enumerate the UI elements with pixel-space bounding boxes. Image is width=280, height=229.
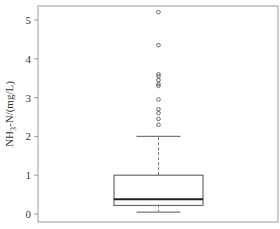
y-tick-label: 5 [26,14,32,26]
y-axis-label: NH3-N/(mg/L) [3,81,18,147]
outlier-point [157,107,161,111]
outlier-point [157,123,161,127]
y-tick-label: 4 [26,53,32,65]
box-plot: 012345 NH3-N/(mg/L) [0,0,280,229]
y-tick-label: 2 [26,130,32,142]
outlier-point [157,111,161,115]
y-axis: 012345 [26,14,39,220]
y-tick-label: 3 [26,92,32,104]
outlier-point [157,43,161,47]
box-series [114,10,203,212]
outlier-point [157,78,161,82]
iqr-box [114,175,203,205]
outlier-point [157,10,161,14]
outlier-point [157,117,161,121]
y-tick-label: 0 [26,208,32,220]
y-tick-label: 1 [26,169,32,181]
outlier-point [157,98,161,102]
